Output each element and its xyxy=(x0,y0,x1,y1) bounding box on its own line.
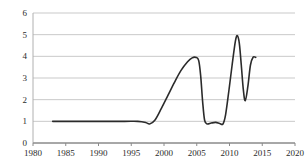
y-tick-label: 3 xyxy=(0,74,27,83)
chart-canvas xyxy=(0,0,308,168)
x-tick-label: 2000 xyxy=(155,149,173,158)
y-tick-label: 4 xyxy=(0,52,27,61)
y-tick-label: 6 xyxy=(0,9,27,18)
data-series-line xyxy=(53,36,256,125)
y-tick-label: 1 xyxy=(0,117,27,126)
x-tick-label: 1985 xyxy=(57,149,75,158)
line-chart: 0123456 19801985199019952000200520102015… xyxy=(0,0,308,168)
x-tick-label: 1980 xyxy=(24,149,42,158)
gridlines-group xyxy=(33,13,295,143)
x-tick-label: 1995 xyxy=(122,149,140,158)
y-tick-label: 0 xyxy=(0,139,27,148)
x-tick-label: 1990 xyxy=(90,149,108,158)
x-tick-label: 2010 xyxy=(221,149,239,158)
y-tick-label: 2 xyxy=(0,95,27,104)
x-tick-label: 2020 xyxy=(286,149,304,158)
y-tick-label: 5 xyxy=(0,30,27,39)
x-tick-label: 2015 xyxy=(253,149,271,158)
x-tick-label: 2005 xyxy=(188,149,206,158)
